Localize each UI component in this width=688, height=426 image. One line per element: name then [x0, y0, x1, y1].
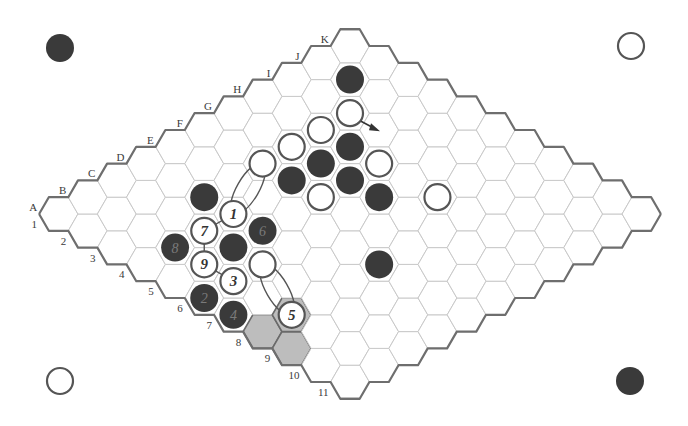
- number-label-2: 2: [61, 235, 67, 247]
- move-number: 3: [229, 273, 238, 289]
- stone-white-C6: [250, 251, 276, 277]
- number-label-6: 6: [177, 302, 183, 314]
- stone-black-B4: 8: [161, 234, 189, 262]
- stone-white-D4: 1: [220, 201, 246, 227]
- stone-black-J2: [336, 66, 364, 94]
- letter-label-D: D: [117, 151, 125, 163]
- stone-black-E8: [365, 250, 393, 278]
- stone-white-G3: [279, 134, 305, 160]
- stone-white-B6: 3: [220, 268, 246, 294]
- letter-label-F: F: [177, 117, 183, 129]
- move-number: 1: [230, 206, 238, 222]
- stone-black-D3: [190, 183, 218, 211]
- stone-white-I3: [337, 100, 363, 126]
- letter-label-K: K: [321, 33, 329, 45]
- letter-label-B: B: [59, 184, 66, 196]
- move-number: 9: [201, 256, 209, 272]
- move-number: 2: [201, 291, 208, 306]
- number-label-9: 9: [265, 352, 271, 364]
- stone-white-H7: [424, 184, 450, 210]
- stone-black-G5: [336, 166, 364, 194]
- move-number: 5: [288, 307, 296, 323]
- letter-label-H: H: [233, 83, 241, 95]
- stone-black-D5: 6: [249, 217, 277, 245]
- letter-label-G: G: [204, 100, 212, 112]
- number-label-3: 3: [90, 252, 96, 264]
- letter-label-J: J: [295, 50, 300, 62]
- stone-white-H5: [366, 151, 392, 177]
- move-number: 4: [230, 308, 237, 323]
- stone-black-G6: [365, 183, 393, 211]
- stone-black-A7: 4: [219, 301, 247, 329]
- corner-stone-top-left: [46, 34, 74, 62]
- stone-white-F3: [250, 151, 276, 177]
- hex-board: ABCDEFGHIJK1234567891011 123456789: [0, 0, 688, 426]
- number-label-8: 8: [236, 336, 242, 348]
- move-number: 8: [172, 241, 179, 256]
- stone-black-H4: [336, 133, 364, 161]
- letter-label-E: E: [147, 134, 154, 146]
- stone-black-F4: [278, 166, 306, 194]
- number-label-11: 11: [318, 386, 329, 398]
- stone-white-C4: 7: [191, 218, 217, 244]
- number-label-4: 4: [119, 268, 125, 280]
- move-number: 7: [201, 223, 209, 239]
- corner-stone-bottom-left: [47, 368, 73, 394]
- corner-stone-bottom-right: [616, 367, 644, 395]
- letter-label-C: C: [88, 167, 95, 179]
- move-number: 6: [259, 224, 266, 239]
- stone-black-A6: 2: [190, 284, 218, 312]
- letter-label-I: I: [267, 67, 271, 79]
- number-label-7: 7: [207, 319, 213, 331]
- stone-black-G4: [307, 150, 335, 178]
- stone-white-B8: 5: [279, 302, 305, 328]
- stone-white-F5: [308, 184, 334, 210]
- number-label-1: 1: [32, 218, 38, 230]
- letter-label-A: A: [29, 201, 37, 213]
- corner-stone-top-right: [618, 33, 644, 59]
- stone-black-C5: [219, 234, 247, 262]
- number-label-10: 10: [288, 369, 300, 381]
- stone-white-B5: 9: [191, 251, 217, 277]
- stone-white-H3: [308, 117, 334, 143]
- number-label-5: 5: [148, 285, 154, 297]
